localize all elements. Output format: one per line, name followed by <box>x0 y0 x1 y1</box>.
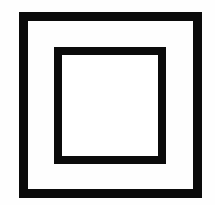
inner-blank-field <box>62 55 158 156</box>
symbol-canvas: Two concentric squares <box>0 0 215 205</box>
